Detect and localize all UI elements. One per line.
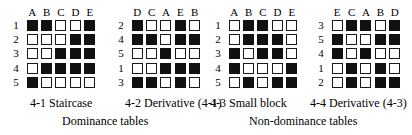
matrix-cell-slot [173,61,187,75]
matrix-cell-slot [344,47,358,61]
filled-cell [84,63,95,74]
matrix-cell-slot [241,76,255,90]
matrix-cell-slot [39,47,53,61]
empty-cell [41,77,52,88]
column-label: B [188,7,202,18]
matrix-cells [130,32,202,46]
empty-cell [55,20,66,31]
row-label: 2 [9,34,25,45]
matrix-row: 5 [114,47,202,61]
matrix-cell-slot [285,18,299,32]
row-label: 2 [211,34,227,45]
empty-cell [189,48,200,59]
matrix-cells [25,76,97,90]
row-label: 5 [211,77,227,88]
caption-matrix-4-2: 4-2 Derivative (4-1) [125,96,222,110]
matrix-cell-slot [25,32,39,46]
row-label: 3 [9,48,25,59]
empty-cell [132,63,143,74]
filled-cell [389,77,400,88]
filled-cell [332,34,343,45]
matrix-cell-slot [227,76,241,90]
matrix-cell-slot [39,61,53,75]
matrix-cell-slot [388,32,402,46]
empty-cell [243,48,254,59]
filled-cell [286,63,297,74]
matrix-cell-slot [388,18,402,32]
matrix-cell-slot [388,76,402,90]
filled-cell [375,77,386,88]
filled-cell [160,63,171,74]
column-label: D [388,7,402,18]
matrix-row: 3 [314,18,402,32]
matrix-cell-slot [130,32,144,46]
filled-cell [346,77,357,88]
matrix-cell-slot [54,61,68,75]
matrix-cells [330,61,402,75]
filled-cell [360,48,371,59]
filled-cell [243,77,254,88]
matrix-cell-slot [68,47,82,61]
matrix-cell-slot [330,32,344,46]
matrix-cell-slot [344,61,358,75]
matrix-4-2: D C A E B 24513 [104,4,202,92]
row-label: 1 [314,63,330,74]
matrix-cell-slot [159,61,173,75]
caption-matrix-4-3: 4-3 Small block [210,96,287,110]
filled-cell [243,34,254,45]
filled-cell [189,34,200,45]
filled-cell [332,48,343,59]
empty-cell [332,20,343,31]
caption-non-dominance-tables: Non-dominance tables [249,114,357,128]
filled-cell [70,63,81,74]
matrix-4-1: A B C D E 12345 [0,4,104,92]
matrix-cell-slot [285,47,299,61]
matrix-cell-slot [227,32,241,46]
caption-matrix-4-1: 4-1 Staircase [30,96,92,110]
filled-cell [55,63,66,74]
matrix-cells [130,18,202,32]
filled-cell [175,20,186,31]
row-label: 5 [9,77,25,88]
matrix-cell-slot [144,47,158,61]
empty-cell [132,48,143,59]
filled-cell [257,20,268,31]
filled-cell [27,20,38,31]
matrix-cell-slot [373,76,387,90]
row-label: 5 [314,34,330,45]
column-label: D [130,7,144,18]
matrix-cell-slot [359,61,373,75]
filled-cell [84,20,95,31]
matrix-row: 1 [211,18,299,32]
matrix-cell-slot [68,18,82,32]
matrix-row: 4 [314,47,402,61]
matrix-row: 2 [314,76,402,90]
matrix-cell-slot [359,32,373,46]
matrix-cell-slot [285,76,299,90]
matrix-cell-slot [285,32,299,46]
matrix-cell-slot [188,18,202,32]
column-label: C [256,7,270,18]
matrix-cell-slot [159,18,173,32]
caption-matrix-4-4: 4-4 Derivative (4-3) [310,96,407,110]
matrix-cell-slot [130,47,144,61]
column-label: A [25,7,39,18]
matrix-cell-slot [83,61,97,75]
caption-row-titles: 4-1 Staircase 4-2 Derivative (4-1) 4-3 S… [0,96,412,112]
matrix-cells [227,76,299,90]
row-label: 3 [314,20,330,31]
matrix-cell-slot [188,47,202,61]
matrix-cell-slot [188,61,202,75]
matrix-cell-slot [144,32,158,46]
empty-cell [55,34,66,45]
matrix-4-4-column-headers: E C A B D [330,4,402,18]
empty-cell [70,77,81,88]
row-label: 3 [114,77,130,88]
matrix-cells [330,32,402,46]
matrix-cell-slot [227,47,241,61]
empty-cell [146,63,157,74]
matrix-cell-slot [25,47,39,61]
empty-cell [160,77,171,88]
matrix-cell-slot [256,61,270,75]
matrix-cell-slot [39,32,53,46]
